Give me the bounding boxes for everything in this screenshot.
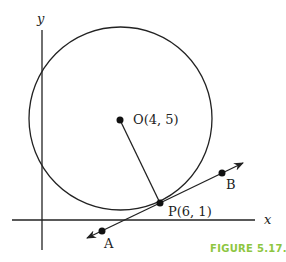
x-axis-label: x <box>264 212 272 227</box>
tangent-circle-diagram: y x O(4, 5) P(6, 1) A B FIGURE 5.17. <box>0 0 286 262</box>
point-a-label: A <box>103 236 114 251</box>
point-b-label: B <box>226 177 236 192</box>
y-axis-label: y <box>36 11 45 26</box>
point-A <box>99 228 106 235</box>
center-label: O(4, 5) <box>133 112 179 127</box>
tangent-point-P <box>157 200 164 207</box>
center-point-O <box>117 117 124 124</box>
figure-caption: FIGURE 5.17. <box>210 243 286 254</box>
tangent-point-label: P(6, 1) <box>168 204 212 219</box>
radius-segment <box>120 120 160 203</box>
point-B <box>219 170 226 177</box>
